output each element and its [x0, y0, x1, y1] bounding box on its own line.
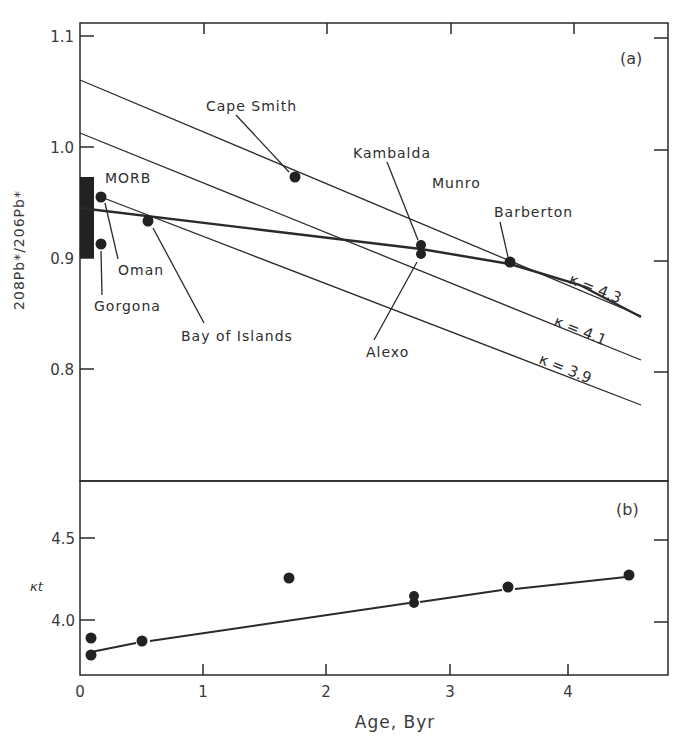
kappa-4.3-line: [80, 80, 641, 316]
y-axis-label-a: 208Pb*/206Pb*: [11, 190, 27, 310]
label-gorgona: Gorgona: [94, 298, 161, 314]
point-bay-of-islands: [143, 216, 154, 227]
x-axis-label: Age, Byr: [355, 712, 435, 732]
figure: 1.1 1.0 0.9 0.8 208Pb*/206Pb* (a) MORB O…: [0, 0, 682, 750]
point-alexo: [416, 249, 426, 259]
panel-b-points: [86, 570, 635, 661]
point-oman: [96, 192, 107, 203]
xtick-2: 2: [321, 683, 331, 701]
label-munro: Munro: [432, 175, 481, 191]
point-gorgona: [96, 239, 107, 250]
point-cape-smith: [290, 172, 301, 183]
point-b-1: [86, 633, 97, 644]
morb-range-bar: [80, 177, 94, 258]
xtick-3: 3: [445, 683, 455, 701]
panel-b-frame: [80, 481, 668, 675]
evolution-curve: [80, 208, 641, 317]
panel-a: [80, 23, 668, 481]
point-b-8: [624, 570, 635, 581]
panel-label-b: (b): [616, 500, 639, 519]
label-morb: MORB: [105, 170, 151, 186]
ytick-a-0.9: 0.9: [50, 250, 74, 268]
point-kambalda: [416, 240, 426, 250]
point-barberton: [505, 257, 516, 268]
xtick-0: 0: [75, 683, 85, 701]
label-barberton: Barberton: [494, 204, 573, 220]
ytick-a-0.8: 0.8: [50, 361, 74, 379]
ytick-b-4.0: 4.0: [51, 612, 75, 630]
label-kappa-4.3: κ = 4.3: [567, 270, 625, 307]
y-axis-label-b: κt: [30, 579, 44, 594]
label-alexo: Alexo: [366, 344, 409, 360]
label-cape-smith: Cape Smith: [206, 98, 297, 114]
ytick-a-1.1: 1.1: [50, 28, 74, 46]
kappa-t-fit-line: [91, 643, 136, 652]
point-b-4: [284, 573, 295, 584]
label-oman: Oman: [118, 262, 164, 278]
point-b-2: [86, 650, 97, 661]
ytick-b-4.5: 4.5: [51, 530, 75, 548]
xtick-1: 1: [198, 683, 208, 701]
label-kappa-4.1: κ = 4.1: [552, 312, 610, 349]
point-b-6: [409, 598, 419, 608]
label-bay-of-islands: Bay of Islands: [181, 328, 293, 344]
label-kambalda: Kambalda: [353, 145, 431, 161]
xtick-4: 4: [563, 683, 573, 701]
point-b-7: [503, 582, 514, 593]
panel-label-a: (a): [620, 49, 642, 68]
point-b-3: [137, 636, 148, 647]
label-kappa-3.9: κ = 3.9: [537, 350, 595, 387]
panel-b: [80, 481, 668, 675]
ytick-a-1.0: 1.0: [50, 139, 74, 157]
